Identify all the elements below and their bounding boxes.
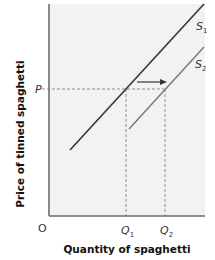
x-axis-title: Quantity of spaghetti [63,243,190,255]
q2-label: Q2 [160,224,173,239]
price-p-label: P [35,83,42,96]
q1-label: Q1 [121,224,134,239]
supply-shift-diagram: S1 S2 P O Q1 Q2 Quantity of spaghetti Pr… [0,0,215,260]
plot-area [49,4,205,216]
s1-label: S1 [196,20,207,35]
y-axis-title: Price of tinned spaghetti [14,60,26,207]
origin-label: O [38,222,47,235]
